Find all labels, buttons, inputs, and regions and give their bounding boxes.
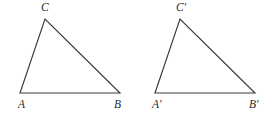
triangle-abc-group [20, 19, 120, 93]
vertex-label-a-prime: A′ [152, 99, 162, 111]
triangle-abc-outline [20, 19, 120, 93]
vertex-label-c-prime: C′ [176, 2, 186, 14]
vertex-label-b: B [114, 99, 121, 111]
triangle-a-prime-group [155, 19, 255, 93]
triangles-canvas [0, 0, 272, 117]
geometry-figure: A B C A′ B′ C′ [0, 0, 272, 117]
vertex-label-a: A [18, 99, 25, 111]
vertex-label-b-prime: B′ [249, 99, 259, 111]
vertex-label-c: C [41, 2, 49, 14]
triangle-a-prime-b-prime-c-prime-outline [155, 19, 255, 93]
